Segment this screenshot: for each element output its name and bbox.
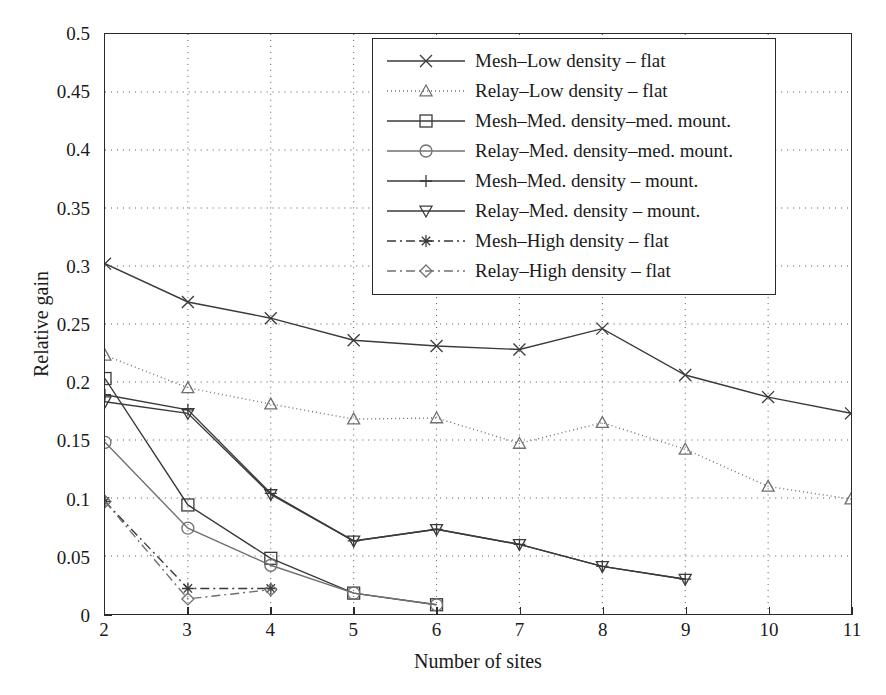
x-tick-label: 7 [490,620,550,639]
legend-label: Relay–Med. density – mount. [475,198,700,224]
legend-label: Mesh–Med. density–med. mount. [475,108,731,134]
legend-label: Relay–High density – flat [475,258,671,284]
y-tick-label: 0.35 [10,198,90,217]
x-tick-mark [520,607,521,615]
legend-item: Relay–High density – flat [373,256,775,286]
y-tick-label: 0.3 [10,256,90,275]
legend-label: Mesh–High density – flat [475,228,669,254]
chart-legend: Mesh–Low density – flatRelay–Low density… [372,38,776,295]
x-tick-label: 8 [573,620,633,639]
legend-label: Relay–Low density – flat [475,78,668,104]
x-tick-label: 10 [739,620,799,639]
x-tick-label: 2 [74,620,134,639]
x-tick-mark [436,607,437,615]
legend-label: Mesh–Med. density – mount. [475,168,698,194]
legend-marker-icon [383,228,469,254]
x-axis-title: Number of sites [104,650,852,673]
legend-item: Relay–Low density – flat [373,76,775,106]
x-tick-label: 6 [406,620,466,639]
x-tick-mark [187,607,188,615]
legend-label: Mesh–Low density – flat [475,48,666,74]
x-tick-mark [353,607,354,615]
legend-item: Mesh–Med. density–med. mount. [373,106,775,136]
series-line [105,436,443,610]
legend-label: Relay–Med. density–med. mount. [475,138,733,164]
x-tick-mark [603,607,604,615]
x-tick-mark [686,607,687,615]
legend-marker-icon [383,138,469,164]
y-tick-label: 0.25 [10,315,90,334]
y-tick-label: 0.4 [10,140,90,159]
x-tick-label: 3 [157,620,217,639]
legend-marker-icon [383,78,469,104]
x-tick-label: 5 [323,620,383,639]
legend-marker-icon [383,258,469,284]
legend-item: Relay–Med. density – mount. [373,196,775,226]
y-tick-label: 0.15 [10,431,90,450]
y-tick-label: 0.5 [10,24,90,43]
x-tick-mark [104,607,105,615]
y-tick-label: 0.05 [10,547,90,566]
legend-item: Mesh–High density – flat [373,226,775,256]
x-tick-label: 4 [240,620,300,639]
x-tick-mark [852,607,853,615]
legend-marker-icon [383,198,469,224]
chart-figure: Relative gain 00.050.10.150.20.250.30.35… [0,0,886,695]
x-tick-mark [270,607,271,615]
x-tick-label: 11 [822,620,882,639]
legend-marker-icon [383,48,469,74]
series-line [105,349,851,504]
legend-item: Mesh–Low density – flat [373,46,775,76]
y-tick-mark [104,615,112,616]
y-tick-label: 0.45 [10,82,90,101]
series-line [105,397,691,585]
x-tick-label: 9 [656,620,716,639]
legend-marker-icon [383,168,469,194]
y-tick-label: 0.2 [10,373,90,392]
y-axis-tick-labels: 00.050.10.150.20.250.30.350.40.450.5 [0,0,100,695]
y-tick-label: 0.1 [10,489,90,508]
legend-item: Mesh–Med. density – mount. [373,166,775,196]
x-tick-mark [769,607,770,615]
legend-marker-icon [383,108,469,134]
legend-item: Relay–Med. density–med. mount. [373,136,775,166]
